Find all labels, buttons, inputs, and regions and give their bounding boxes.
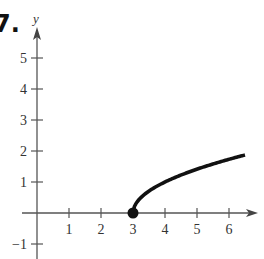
- x-tick-label: 5: [194, 222, 201, 237]
- y-tick-label: 4: [20, 82, 27, 97]
- x-tick-label: 3: [130, 222, 137, 237]
- x-tick-label: 1: [66, 222, 73, 237]
- y-tick-label: 5: [20, 51, 27, 66]
- curve-path: [133, 155, 245, 213]
- axes: [22, 27, 258, 259]
- curve: [128, 155, 246, 219]
- x-tick-label: 6: [226, 222, 233, 237]
- closed-point-icon: [128, 208, 139, 219]
- y-tick-label: 1: [20, 175, 27, 190]
- y-tick-label: 3: [20, 113, 27, 128]
- y-axis-label: y: [31, 11, 39, 26]
- graph: 123456−112345 y: [0, 0, 264, 259]
- x-tick-label: 2: [98, 222, 105, 237]
- x-tick-label: 4: [162, 222, 169, 237]
- y-tick-label: 2: [20, 144, 27, 159]
- tick-marks: 123456−112345: [12, 51, 232, 252]
- y-tick-label: −1: [12, 237, 27, 252]
